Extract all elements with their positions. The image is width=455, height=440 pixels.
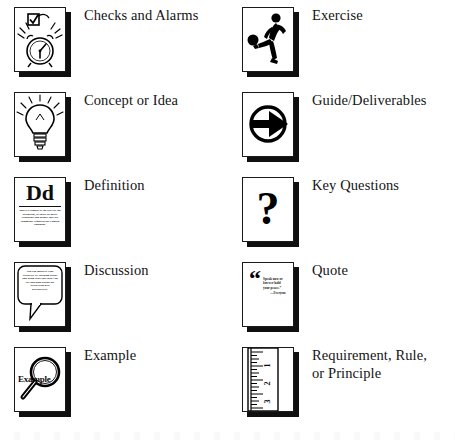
- page-face: “ Speak now or forever hold your peace.”…: [242, 262, 294, 327]
- page-face: Dd This is a sample of the text for the …: [14, 177, 66, 242]
- page-face: [14, 7, 66, 72]
- legend-item-guide-deliverables[interactable]: Guide/Deliverables: [228, 87, 455, 172]
- legend-column-right: Exercise Guide/Deliverables: [228, 0, 455, 440]
- legend-label-line1: Exercise: [312, 7, 363, 23]
- legend-label-line1: Guide/Deliverables: [312, 92, 427, 108]
- legend-item-requirement-rule-principle[interactable]: 1 2 3 Requirement, Rule, or Principle: [228, 342, 455, 427]
- ruler-tick-label-1: 1: [263, 364, 272, 368]
- checkmark-and-alarm-clock-icon: [14, 7, 76, 79]
- discussion-microtext: You can improve your creativity by learn…: [22, 270, 58, 291]
- legend-item-label: Discussion: [84, 261, 226, 279]
- legend-label-line2: or Principle: [312, 364, 454, 382]
- magnifying-glass-icon: Example: [14, 347, 76, 419]
- circled-right-arrow-icon: [242, 92, 304, 164]
- legend-label-line1: Discussion: [84, 262, 149, 278]
- legend-item-definition[interactable]: Dd This is a sample of the text for the …: [0, 172, 227, 257]
- person-kicking-ball-icon: [242, 7, 304, 79]
- legend-item-label: Exercise: [312, 6, 454, 24]
- legend-item-concept-or-idea[interactable]: Concept or Idea: [0, 87, 227, 172]
- ruler-tick-label-3: 3: [263, 400, 272, 404]
- definition-microtext: This is a sample of the text for the def…: [18, 209, 62, 227]
- legend-label-line1: Example: [84, 347, 136, 363]
- legend-item-quote[interactable]: “ Speak now or forever hold your peace.”…: [228, 257, 455, 342]
- speech-bubble-icon: You can improve your creativity by learn…: [14, 262, 76, 334]
- legend-label-line1: Definition: [84, 177, 145, 193]
- question-mark-icon: ?: [242, 177, 304, 249]
- legend-item-key-questions[interactable]: ? Key Questions: [228, 172, 455, 257]
- page-face: You can improve your creativity by learn…: [14, 262, 66, 327]
- icon-legend-grid: Checks and Alarms: [0, 0, 455, 440]
- legend-item-discussion[interactable]: You can improve your creativity by learn…: [0, 257, 227, 342]
- legend-item-label: Quote: [312, 261, 454, 279]
- legend-item-example[interactable]: Example Example: [0, 342, 227, 427]
- legend-column-left: Checks and Alarms: [0, 0, 227, 440]
- definition-headword: Dd: [18, 181, 62, 205]
- legend-item-label: Definition: [84, 176, 226, 194]
- page-face: [242, 92, 294, 157]
- legend-item-exercise[interactable]: Exercise: [228, 2, 455, 87]
- legend-label-line1: Requirement, Rule,: [312, 347, 427, 363]
- lightbulb-icon: [14, 92, 76, 164]
- legend-item-label: Guide/Deliverables: [312, 91, 454, 109]
- page-face: [14, 92, 66, 157]
- legend-item-label: Concept or Idea: [84, 91, 226, 109]
- page-face: Example: [14, 347, 66, 412]
- quotation-mark-icon: “ Speak now or forever hold your peace.”…: [242, 262, 304, 334]
- legend-label-line1: Key Questions: [312, 177, 399, 193]
- page-face: [242, 7, 294, 72]
- question-mark-glyph: ?: [243, 178, 293, 234]
- page-face: ?: [242, 177, 294, 242]
- legend-item-label: Example: [84, 346, 226, 364]
- legend-label-line1: Checks and Alarms: [84, 7, 198, 23]
- legend-item-label: Checks and Alarms: [84, 6, 226, 24]
- legend-label-line1: Concept or Idea: [84, 92, 178, 108]
- ruler-tick-label-2: 2: [263, 382, 272, 386]
- legend-item-checks-and-alarms[interactable]: Checks and Alarms: [0, 2, 227, 87]
- dictionary-entry-icon: Dd This is a sample of the text for the …: [14, 177, 76, 249]
- page-face: 1 2 3: [242, 347, 294, 412]
- ruler-icon: 1 2 3: [242, 347, 304, 419]
- legend-item-label: Requirement, Rule, or Principle: [312, 346, 454, 382]
- legend-label-line1: Quote: [312, 262, 348, 278]
- legend-item-label: Key Questions: [312, 176, 454, 194]
- quote-open-mark: “: [249, 269, 261, 287]
